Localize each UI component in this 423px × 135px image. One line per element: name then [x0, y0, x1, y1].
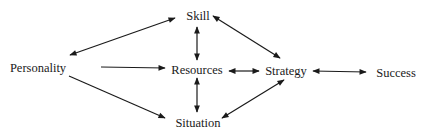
edge-situation-strategy	[222, 80, 284, 118]
edge-personality-resources	[101, 67, 165, 68]
edge-skill-strategy	[213, 16, 280, 58]
node-situation: Situation	[175, 116, 220, 130]
edge-strategy-success	[313, 71, 366, 72]
edge-personality-situation	[69, 76, 165, 118]
node-skill: Skill	[186, 9, 210, 23]
edge-personality-skill	[70, 18, 175, 55]
node-success: Success	[376, 66, 416, 80]
node-strategy: Strategy	[265, 64, 307, 78]
node-personality: Personality	[10, 61, 66, 75]
node-resources: Resources	[171, 63, 222, 77]
